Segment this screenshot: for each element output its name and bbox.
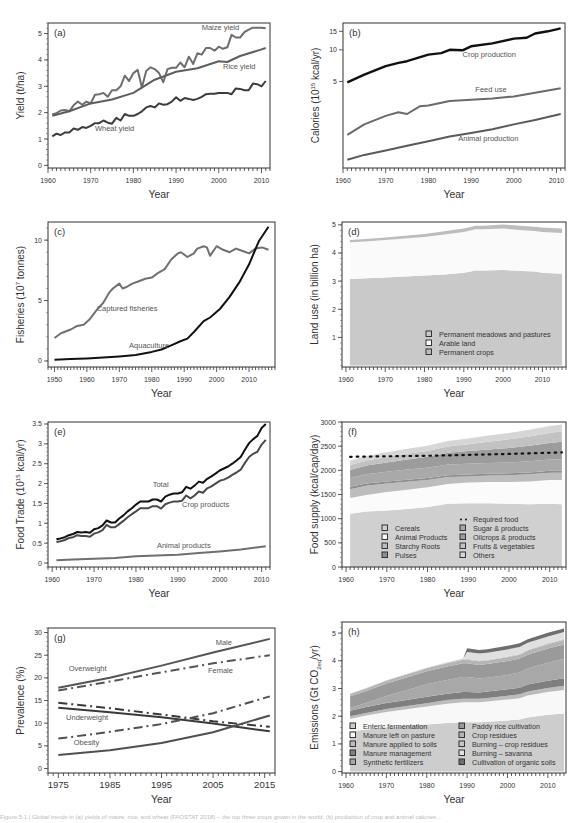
x-tick-label: 1960 — [335, 177, 351, 184]
legend-swatch — [350, 759, 356, 765]
y-tick-label: 15 — [329, 28, 337, 35]
panel-label: (e) — [54, 426, 66, 437]
legend-label: Oilcrops & products — [473, 533, 536, 542]
y-tick-label: 3.5 — [32, 420, 42, 427]
x-tick-label: 2000 — [211, 177, 227, 184]
legend-label: Permanent crops — [439, 348, 494, 357]
legend-label: Manure left on pasture — [363, 731, 435, 740]
y-tick-label: 0 — [332, 564, 336, 571]
x-tick-label: 1980 — [126, 177, 142, 184]
label-rest: kcal/yr) — [310, 48, 321, 83]
series-line-animal-production — [347, 114, 560, 160]
x-tick-label: 1960 — [40, 177, 56, 184]
y-tick-label: 1.5 — [32, 500, 42, 507]
annotation-label: Captured fisheries — [97, 304, 158, 313]
legend-label: Permanent meadows and pastures — [439, 330, 551, 339]
series-group — [347, 28, 560, 159]
x-axis-label: Year — [151, 793, 173, 805]
chart-panel-f: 1960197019801990200020100500100015002000… — [309, 419, 566, 600]
series-group — [52, 28, 265, 137]
y-tick-label: 4 — [332, 657, 336, 664]
legend-item: Manure management — [350, 749, 431, 758]
y-tick-label: 2.5 — [32, 460, 42, 467]
legend-label: Cereals — [395, 524, 420, 533]
y-axis-label: Fisheries (107 tonnes) — [15, 246, 26, 343]
y-tick-label: 5 — [332, 221, 336, 228]
x-tick-label: 1990 — [456, 376, 472, 383]
legend-item: Permanent meadows and pastures — [426, 330, 551, 339]
y-tick-label: 3000 — [320, 419, 336, 426]
y-axis-label: Food supply (kcal/cap/day) — [309, 435, 320, 555]
x-tick-label: 2010 — [241, 376, 257, 383]
legend-swatch — [382, 525, 388, 531]
chart-panel-c: Captured fisheriesAquaculture19501960197… — [15, 222, 275, 399]
panel-label: (d) — [348, 226, 360, 237]
annotation-label: Total — [153, 480, 169, 489]
x-tick-label: 1970 — [86, 576, 102, 583]
y-tick-label: 0 — [38, 162, 42, 169]
y-tick-label: 0 — [332, 768, 336, 775]
y-tick-label: 5 — [333, 78, 337, 85]
x-tick-label: 2010 — [535, 376, 551, 383]
area-arable-land — [350, 229, 562, 279]
series-line-crop-production — [347, 28, 560, 82]
legend-swatch — [460, 543, 466, 549]
legend-label: Arable land — [439, 339, 475, 348]
y-tick-label: 10 — [34, 237, 42, 244]
y-axis-label: Emissions (Gt CO2eq/yr) — [309, 645, 322, 749]
annotation-label: Animal production — [458, 134, 518, 143]
x-tick-label: 1960 — [79, 376, 95, 383]
legend-dot-marker — [460, 519, 462, 521]
x-axis-label: Year — [151, 387, 173, 399]
legend-label: Starchy Roots — [395, 542, 441, 551]
legend-label: Paddy rice cultivation — [472, 722, 540, 731]
legend-label: Fruits & vegetables — [473, 542, 535, 551]
legend-swatch — [350, 750, 356, 756]
annotation-label: Maize yield — [202, 23, 240, 32]
x-tick-label: 1990 — [463, 177, 479, 184]
annotation-label: Wheat yield — [95, 124, 134, 133]
y-tick-label: 0 — [38, 560, 42, 567]
x-tick-label: 2000 — [209, 376, 225, 383]
legend-swatch — [426, 349, 432, 355]
series-line-crop-products — [56, 440, 265, 542]
x-axis-label: Year — [148, 587, 170, 599]
y-tick-label: 1 — [332, 334, 336, 341]
annotation-label: Obesity — [74, 738, 100, 747]
legend-swatch — [459, 759, 465, 765]
legend-swatch — [382, 543, 388, 549]
x-tick-label: 2000 — [506, 177, 522, 184]
x-tick-label: 2000 — [501, 576, 517, 583]
y-tick-label: 4 — [332, 249, 336, 256]
y-tick-label: 0 — [38, 765, 42, 772]
x-tick-label: 1960 — [338, 782, 354, 789]
y-axis-label: Prevalence (%) — [15, 666, 26, 734]
label-rest: /yr) — [309, 645, 320, 659]
x-tick-label: 1970 — [378, 177, 394, 184]
y-axis-label: Land use (in billion ha) — [309, 244, 320, 345]
legend-label: Cultivation of organic soils — [472, 758, 556, 767]
legend-item: Burning – crop residues — [459, 740, 548, 749]
y-tick-label: 2500 — [320, 443, 336, 450]
x-tick-label: 1990 — [168, 177, 184, 184]
x-tick-label: 1980 — [419, 782, 435, 789]
x-axis-label: Year — [148, 188, 170, 200]
x-axis-label: Year — [443, 793, 465, 805]
y-tick-label: 2 — [38, 109, 42, 116]
legend-label: Burning – savanna — [472, 749, 532, 758]
x-tick-label: 1990 — [170, 576, 186, 583]
figure-canvas: Maize yieldRice yieldWheat yield19601970… — [0, 0, 583, 812]
annotation-label: Feed use — [475, 85, 506, 94]
legend-label: Pulses — [395, 551, 417, 560]
x-tick-label: 1970 — [112, 376, 128, 383]
plot-frame — [48, 628, 275, 773]
legend-swatch — [350, 723, 356, 729]
y-tick-label: 10 — [34, 720, 42, 727]
legend-swatch — [460, 534, 466, 540]
y-tick-label: 3 — [332, 685, 336, 692]
panel-label: (f) — [348, 426, 357, 437]
chart-panel-d: 19601970198019902000201012345YearLand us… — [309, 221, 566, 399]
figure-caption: Figure 5.1 | Global trends in (a) yields… — [0, 812, 583, 823]
plot-frame — [48, 23, 270, 168]
legend-swatch — [459, 741, 465, 747]
